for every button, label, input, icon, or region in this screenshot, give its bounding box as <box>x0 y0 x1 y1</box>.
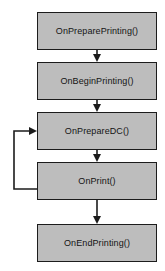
arrowhead-down-2 <box>93 104 101 112</box>
node-onendprinting[interactable]: OnEndPrinting() <box>37 224 157 262</box>
node-onbeginprinting[interactable]: OnBeginPrinting() <box>37 62 157 100</box>
node-onprint[interactable]: OnPrint() <box>37 162 157 200</box>
node-label: OnEndPrinting() <box>64 239 130 248</box>
node-label: OnPrepareDC() <box>65 127 129 136</box>
arrowhead-right-loop <box>29 127 37 135</box>
flowchart-diagram: OnPreparePrinting() OnBeginPrinting() On… <box>0 0 165 271</box>
edge-print-loop-back-to-preparedc <box>14 131 37 189</box>
node-label: OnPrint() <box>78 177 115 186</box>
arrowhead-down-4 <box>93 216 101 224</box>
node-label: OnBeginPrinting() <box>60 77 133 86</box>
node-onpreparedc[interactable]: OnPrepareDC() <box>37 112 157 150</box>
arrowhead-down-1 <box>93 54 101 62</box>
node-label: OnPreparePrinting() <box>56 27 138 36</box>
node-onprepareprinting[interactable]: OnPreparePrinting() <box>37 12 157 50</box>
arrowhead-down-3 <box>93 154 101 162</box>
